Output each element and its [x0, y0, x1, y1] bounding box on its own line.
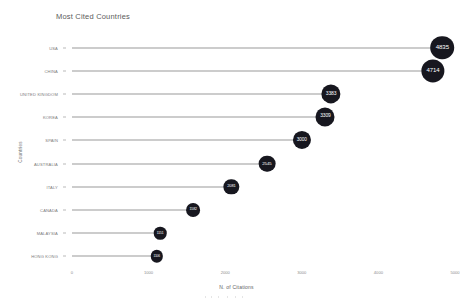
x-tick-2000: 2000 [221, 270, 230, 275]
page-artifact [205, 296, 243, 298]
y-axis-label-australia: AUSTRALIA [34, 161, 58, 166]
data-point[interactable]: 3383 [322, 84, 341, 103]
x-axis-tick-labels: 010002000300040005000 [72, 268, 455, 282]
data-point[interactable]: 3000 [293, 131, 311, 149]
x-tick-3000: 3000 [297, 270, 306, 275]
y-axis-label-usa: USA [49, 45, 58, 50]
y-axis-label-canada: CANADA [40, 208, 58, 213]
y-tick-mark [63, 233, 66, 234]
data-point[interactable]: 1106 [151, 250, 163, 262]
lollipop-chart: Most Cited Countries Countries USACHINAU… [0, 0, 473, 300]
x-tick-0: 0 [71, 270, 73, 275]
lollipop-stem [72, 256, 157, 257]
y-axis-label-korea: KOREA [43, 115, 58, 120]
data-point[interactable]: 4835 [431, 36, 455, 60]
lollipop-stem [72, 163, 267, 164]
lollipop-stem [72, 94, 331, 95]
y-tick-mark [63, 140, 66, 141]
y-axis-label-united-kingdom: UNITED KINGDOM [20, 92, 58, 97]
data-point[interactable]: 1582 [186, 203, 200, 217]
y-axis-label-china: CHINA [45, 68, 59, 73]
x-axis-title: N. of Citations [0, 284, 473, 290]
data-point[interactable]: 4714 [421, 59, 444, 82]
data-point[interactable]: 2081 [224, 179, 239, 194]
y-tick-mark [63, 256, 66, 257]
y-tick-mark [63, 94, 66, 95]
x-tick-1000: 1000 [144, 270, 153, 275]
y-axis-label-hong-kong: HONG KONG [31, 254, 58, 259]
y-axis-label-spain: SPAIN [45, 138, 58, 143]
y-tick-mark [63, 70, 66, 71]
lollipop-stem [72, 70, 433, 71]
y-axis-label-italy: ITALY [46, 184, 58, 189]
y-axis-tick-labels: USACHINAUNITED KINGDOMKOREASPAINAUSTRALI… [0, 36, 66, 268]
data-point[interactable]: 3309 [316, 108, 335, 127]
chart-title: Most Cited Countries [56, 12, 130, 21]
y-tick-mark [63, 210, 66, 211]
y-tick-mark [63, 47, 66, 48]
data-point[interactable]: 2545 [259, 155, 276, 172]
lollipop-stem [72, 186, 231, 187]
x-tick-5000: 5000 [450, 270, 459, 275]
lollipop-stem [72, 140, 302, 141]
lollipop-stem [72, 210, 193, 211]
data-point[interactable]: 1151 [154, 227, 167, 240]
y-tick-mark [63, 186, 66, 187]
lollipop-stem [72, 233, 160, 234]
lollipop-stem [72, 47, 442, 48]
lollipop-stem [72, 117, 325, 118]
x-tick-4000: 4000 [374, 270, 383, 275]
plot-area: 4835471433833309300025452081158211511106 [72, 36, 455, 268]
y-axis-label-malaysia: MALAYSIA [37, 231, 58, 236]
y-tick-mark [63, 117, 66, 118]
y-tick-mark [63, 163, 66, 164]
